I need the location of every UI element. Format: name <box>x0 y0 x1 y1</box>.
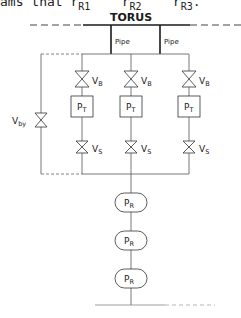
pipe-right: Pipe <box>160 25 179 54</box>
gate-valve-icon <box>183 141 195 153</box>
gate-valve-icon <box>124 71 138 87</box>
bypass-line: Vby <box>12 54 47 174</box>
gate-valve-icon <box>125 141 137 153</box>
roughing-pump-3: PR <box>115 269 147 288</box>
turbo-pump-label: PT <box>126 102 135 114</box>
valve-b-label: VB <box>199 76 210 88</box>
pipe-left-label: Pipe <box>115 38 130 46</box>
gate-valve-icon <box>76 141 88 153</box>
branch-2: VB PT VS <box>120 54 152 174</box>
gate-valve-icon <box>182 71 196 87</box>
valve-s-label: VS <box>199 144 209 156</box>
gate-valve-icon <box>75 71 89 87</box>
turbo-pump-label: PT <box>77 102 86 114</box>
roughing-pump-chain: PR PR PR <box>115 174 147 305</box>
turbo-pump-label: PT <box>184 102 193 114</box>
valve-s-label: VS <box>141 144 151 156</box>
vacuum-system-diagram: TORUS Pipe Pipe Vby <box>0 0 241 318</box>
torus-title: TORUS <box>110 11 152 24</box>
valve-s-label: VS <box>92 144 102 156</box>
valve-b-label: VB <box>92 76 103 88</box>
branch-3: VB PT VS <box>178 54 210 174</box>
bypass-valve-label: Vby <box>12 116 26 128</box>
branch-1: VB PT VS <box>71 54 103 174</box>
roughing-pump-1: PR <box>115 193 147 212</box>
roughing-pump-2: PR <box>115 231 147 250</box>
bypass-valve-icon <box>35 113 47 127</box>
pipe-left: Pipe <box>111 25 130 54</box>
valve-b-label: VB <box>141 76 152 88</box>
pipe-right-label: Pipe <box>164 38 179 46</box>
